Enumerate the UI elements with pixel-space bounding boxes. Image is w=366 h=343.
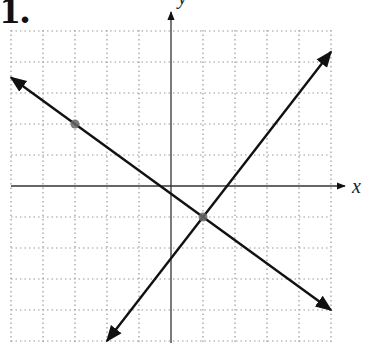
y-axis-label: y — [176, 0, 187, 9]
graph-figure: 1. xy — [0, 0, 366, 343]
coordinate-plane: xy — [0, 0, 366, 343]
point-marker — [71, 120, 80, 129]
point-marker — [199, 213, 208, 222]
x-axis-label: x — [351, 175, 361, 197]
plotted-line-2 — [107, 52, 331, 341]
